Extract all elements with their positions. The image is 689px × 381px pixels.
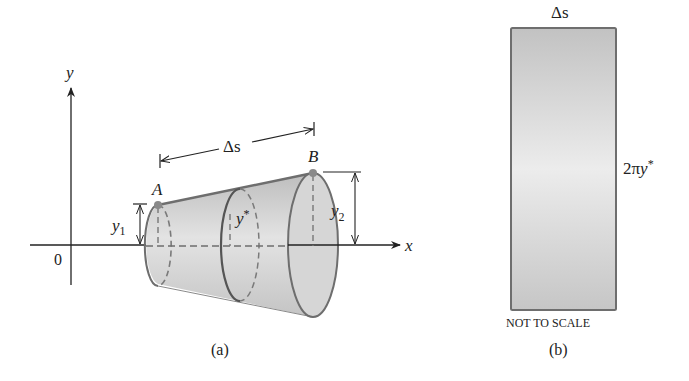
not-to-scale-note: NOT TO SCALE [506,316,590,330]
unrolled-band-rect [511,28,616,310]
point-b [309,169,317,177]
caption-b: (b) [549,341,568,359]
y-axis-label: y [64,63,74,82]
y1-label: y1 [110,216,126,238]
caption-a: (a) [211,341,229,359]
rect-top-label: Δs [551,3,569,22]
delta-s-label: Δs [223,137,241,156]
origin-label: 0 [54,251,62,268]
point-b-label: B [308,147,319,166]
figure-a: y x 0 A B Δs y1 y2 y* (a) [30,63,413,359]
point-a-label: A [151,180,163,199]
point-a [154,201,162,209]
delta-s-arrow-right [252,129,313,142]
figure-b: Δs 2πy* NOT TO SCALE (b) [506,3,654,359]
rect-side-label: 2πy* [623,157,654,178]
x-axis-label: x [404,236,413,255]
delta-s-arrow-left [161,149,219,161]
frustum-figure: y x 0 A B Δs y1 y2 y* (a) Δs 2πy* NOT TO… [0,0,689,381]
